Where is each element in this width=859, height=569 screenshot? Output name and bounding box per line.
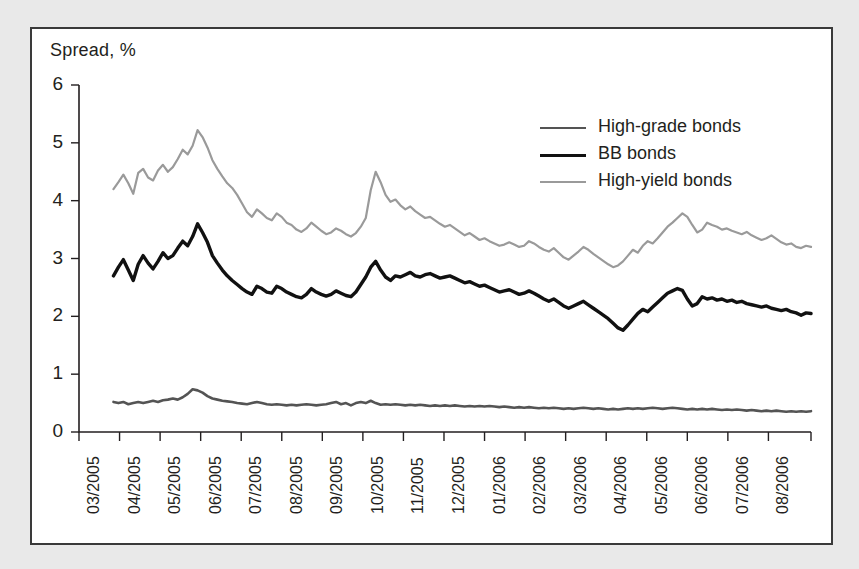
y-axis-tick-label: 3 [41,247,63,269]
x-axis-tick-label: 12/2005 [450,456,468,514]
x-axis-tick-label: 04/2006 [612,456,630,514]
x-axis-tick-label: 09/2005 [328,456,346,514]
figure-frame: Spread, % 0123456 03/200504/200505/20050… [30,27,833,545]
x-axis-tick-label: 05/2005 [166,456,184,514]
legend-item[interactable]: High-grade bonds [540,113,840,140]
x-axis-tick-label: 07/2005 [247,456,265,514]
x-axis-tick-label: 08/2006 [774,456,792,514]
legend-item[interactable]: High-yield bonds [540,167,840,194]
legend-item[interactable]: BB bonds [540,140,840,167]
y-axis-tick-label: 5 [41,131,63,153]
y-axis-tick-label: 4 [41,189,63,211]
legend-line-icon [540,120,586,134]
series-line [113,389,811,412]
legend-line-icon [540,174,586,188]
legend-item-label: High-grade bonds [598,116,741,137]
x-axis-tick-label: 03/2005 [85,456,103,514]
x-axis-tick-label: 08/2005 [288,456,306,514]
y-axis-tick-label: 6 [41,73,63,95]
x-axis-tick-label: 10/2005 [369,456,387,514]
x-axis-tick-label: 01/2006 [491,456,509,514]
legend-item-label: BB bonds [598,143,676,164]
legend-item-label: High-yield bonds [598,170,732,191]
x-axis-tick-label: 03/2006 [572,456,590,514]
x-axis-tick-label: 07/2006 [734,456,752,514]
x-axis-tick-label: 05/2006 [653,456,671,514]
x-axis-tick-label: 04/2005 [126,456,144,514]
legend-line-icon [540,147,586,161]
y-axis-tick-label: 0 [41,420,63,442]
y-axis-tick-label: 2 [41,304,63,326]
x-axis-tick-label: 11/2005 [409,457,427,514]
series-line [113,224,811,330]
x-axis-tick-label: 06/2005 [207,456,225,514]
x-axis-tick-label: 02/2006 [531,456,549,514]
x-axis-tick-label: 06/2006 [693,456,711,514]
chart-legend: High-grade bondsBB bondsHigh-yield bonds [540,113,840,194]
y-axis-tick-label: 1 [41,362,63,384]
chart-plot-area [32,29,831,543]
